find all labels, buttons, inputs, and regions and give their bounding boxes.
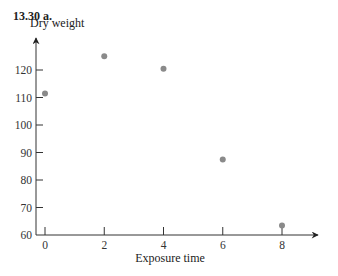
data-point: [101, 53, 107, 59]
data-point: [42, 90, 48, 96]
x-tick-label: 2: [101, 239, 107, 251]
x-tick-label: 4: [161, 239, 167, 251]
y-tick-label: 100: [15, 119, 33, 131]
x-tick-label: 8: [279, 239, 285, 251]
data-point: [279, 222, 285, 228]
data-point: [220, 156, 226, 162]
y-tick-label: 60: [21, 229, 33, 241]
x-tick-label: 6: [220, 239, 226, 251]
x-axis-label: Exposure time: [135, 251, 205, 265]
y-tick-label: 80: [21, 174, 33, 186]
scatter-chart: 6070809010011012002468 Dry weight Exposu…: [0, 0, 338, 276]
y-tick-label: 110: [15, 92, 32, 104]
y-tick-label: 70: [21, 202, 33, 214]
data-point: [161, 66, 167, 72]
y-tick-label: 120: [15, 64, 33, 76]
y-tick-label: 90: [21, 147, 33, 159]
x-tick-label: 0: [42, 239, 48, 251]
y-axis-label: Dry weight: [30, 16, 85, 30]
